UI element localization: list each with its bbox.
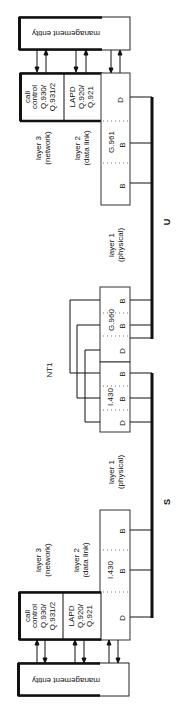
- bottom-l2-text-2: Q.920/: [76, 603, 85, 628]
- bottom-channel-d: D: [118, 615, 127, 621]
- bottom-channel-b1: B: [118, 568, 127, 573]
- bottom-l3-text-4: Q.931/2: [48, 601, 57, 630]
- top-layer1-label: layer 1: [107, 232, 116, 257]
- nt1-u-channel-b2: B: [118, 298, 127, 303]
- nt1-u-standard: G.960: [107, 309, 116, 331]
- top-channel-b2: B: [118, 183, 127, 188]
- top-layer3-label: layer 3: [34, 135, 43, 160]
- bottom-l2-text-1: LAPD: [67, 605, 76, 626]
- bottom-layer3-sublabel: (network): [43, 543, 52, 577]
- bottom-phys-standard: I.430: [106, 561, 115, 579]
- top-management-entity: management entity: [19, 17, 130, 50]
- bottom-layer2-sublabel: (data link): [81, 542, 90, 577]
- bottom-management-label: management entity: [32, 676, 100, 685]
- top-phys-standard: G.961: [107, 131, 116, 153]
- bottom-management-entity: management entity: [18, 663, 129, 696]
- nt1-u-channel-d: D: [118, 348, 127, 354]
- nt1-s-channel-b2: B: [118, 371, 127, 376]
- bottom-channel-b2: B: [118, 528, 127, 533]
- isdn-reference-diagram: management entity call control Q.930/ Q.…: [0, 0, 190, 711]
- top-layer3-layer2-box: call control Q.930/ Q.931/2 LAPD Q.920/ …: [20, 73, 102, 121]
- bottom-mgmt-arrows: [35, 640, 120, 663]
- bottom-layer1-label: layer 1: [107, 459, 116, 484]
- top-layer1-sublabel: (physical): [116, 228, 125, 263]
- top-layer2-label: layer 2: [73, 135, 82, 160]
- top-l3-text-2: control: [30, 85, 39, 109]
- top-mgmt-arrows: [35, 50, 122, 73]
- top-l2-text-1: LAPD: [68, 86, 77, 107]
- top-channel-b1: B: [118, 142, 127, 147]
- bottom-layer2-label: layer 2: [72, 547, 81, 572]
- bottom-layer3-label: layer 3: [34, 547, 43, 572]
- bottom-layer3-layer2-box: call control Q.930/ Q.931/2 LAPD Q.920/ …: [19, 592, 101, 640]
- s-interface-label: S: [162, 499, 172, 505]
- top-layer3-sublabel: (network): [43, 131, 52, 165]
- top-layer2-sublabel: (data link): [82, 130, 91, 165]
- bottom-l3-text-2: control: [30, 604, 39, 628]
- nt1-cross-connects: [70, 300, 100, 422]
- bottom-l2-text-3: Q.921: [85, 605, 94, 627]
- nt1-i430-box: I.430 B B D: [100, 362, 130, 432]
- nt1-g960-box: G.960 B B D: [100, 287, 130, 362]
- nt1-u-channel-b1: B: [118, 323, 127, 328]
- nt1-s-standard: I.430: [106, 388, 115, 406]
- top-management-label: management entity: [32, 29, 100, 38]
- top-l3-text-4: Q.931/2: [48, 82, 57, 111]
- bottom-l3-text-3: Q.930/: [39, 603, 48, 628]
- nt1-label: NT1: [45, 362, 54, 378]
- top-l3-text-3: Q.930/: [39, 84, 48, 109]
- top-l2-text-3: Q.921: [86, 86, 95, 108]
- u-interface-bus: U: [130, 97, 172, 339]
- top-l2-text-2: Q.920/: [77, 84, 86, 109]
- bottom-physical-box: B I.430 B D: [100, 510, 130, 640]
- u-interface-label: U: [162, 219, 172, 226]
- bottom-layer1-sublabel: (physical): [116, 455, 125, 490]
- top-physical-box: D G.961 B B: [101, 73, 130, 205]
- nt1-s-channel-b1: B: [118, 396, 127, 401]
- s-interface-bus: S: [130, 373, 172, 618]
- top-channel-d: D: [116, 97, 125, 103]
- nt1-s-channel-d: D: [118, 420, 127, 426]
